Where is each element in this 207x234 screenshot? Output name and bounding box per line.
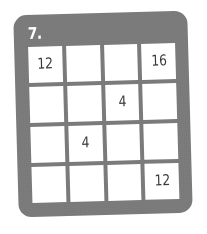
grid-cell-value: 12 [154, 173, 170, 189]
grid-cell-value: 4 [118, 94, 126, 110]
grid-cell-r4c3[interactable] [107, 164, 142, 201]
grid-cell-r3c2[interactable]: 4 [68, 125, 103, 162]
grid-cell-r2c2[interactable] [67, 85, 102, 122]
grid-cell-r1c3[interactable] [104, 44, 139, 81]
grid-cell-r2c1[interactable] [29, 86, 64, 123]
grid-cell-r4c2[interactable] [69, 165, 104, 202]
grid-cell-value: 12 [37, 56, 53, 72]
puzzle-grid: 12 16 4 4 12 [28, 43, 179, 203]
grid-cell-r2c3[interactable]: 4 [105, 84, 140, 121]
grid-cell-r3c1[interactable] [30, 126, 65, 163]
grid-cell-value: 4 [81, 135, 89, 151]
grid-cell-r4c4[interactable]: 12 [145, 163, 180, 200]
grid-cell-r1c4[interactable]: 16 [141, 43, 176, 80]
grid-cell-r2c4[interactable] [142, 83, 177, 120]
grid-cell-value: 16 [151, 53, 167, 69]
grid-cell-r4c1[interactable] [31, 166, 66, 203]
problem-number-label: 7. [28, 26, 42, 42]
puzzle-card: 7. 12 16 4 4 12 [13, 11, 193, 218]
grid-cell-r3c3[interactable] [106, 124, 141, 161]
grid-cell-r3c4[interactable] [144, 123, 179, 160]
grid-cell-r1c2[interactable] [66, 45, 101, 82]
grid-cell-r1c1[interactable]: 12 [28, 46, 63, 83]
